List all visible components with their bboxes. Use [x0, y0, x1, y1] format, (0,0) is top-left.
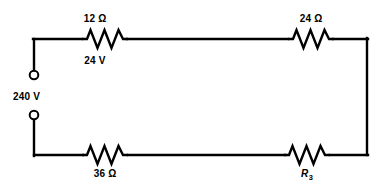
source-terminal-top [30, 71, 39, 80]
resistor-symbol-r3 [284, 146, 330, 164]
label-resistor-r3-subscript: 3 [309, 173, 313, 182]
resistor-symbol-r4 [82, 146, 128, 164]
circuit-diagram: 12 Ω 24 V 24 Ω 240 V 36 Ω R3 [0, 0, 388, 190]
label-resistor-r1: 12 Ω [84, 14, 107, 24]
label-resistor-r2: 24 Ω [300, 14, 323, 24]
label-resistor-r3: R3 [301, 169, 313, 179]
label-resistor-r4: 36 Ω [94, 169, 117, 179]
circuit-schematic-canvas [0, 0, 388, 190]
label-resistor-r3-base: R [301, 168, 308, 179]
source-terminal-bottom [30, 111, 39, 120]
resistor-symbol-r1 [82, 30, 128, 48]
label-source-voltage: 240 V [13, 92, 40, 102]
label-voltage-drop-v1: 24 V [84, 56, 105, 66]
resistor-symbol-r2 [288, 30, 334, 48]
